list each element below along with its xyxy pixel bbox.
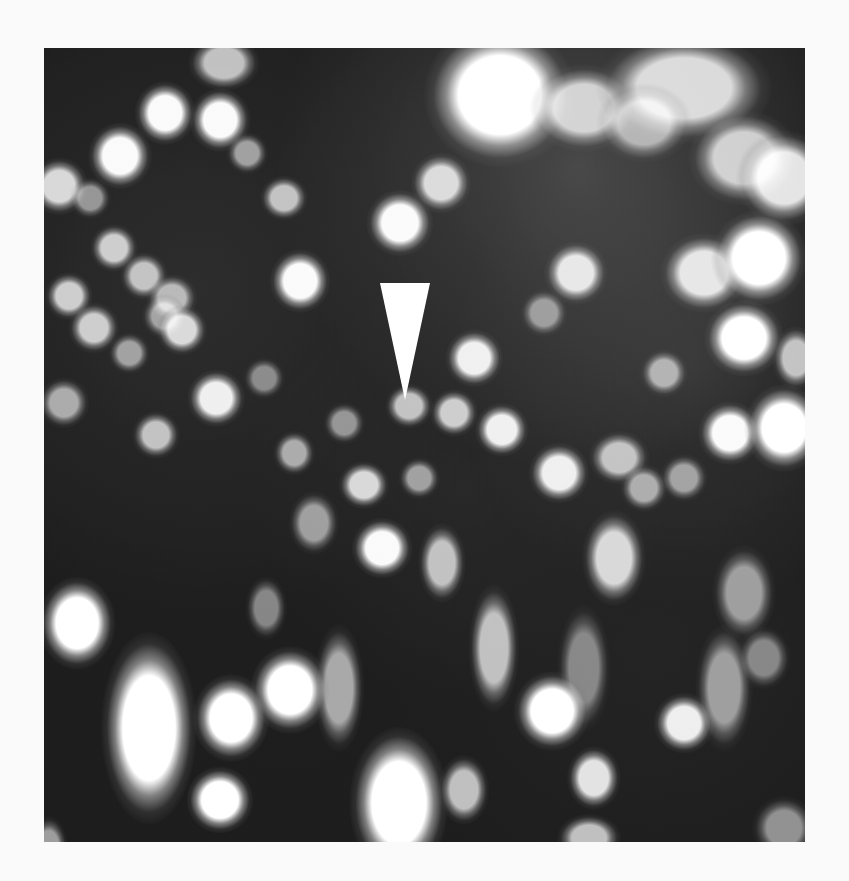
atom-column — [398, 457, 440, 499]
atom-column — [44, 577, 115, 670]
atom-column — [245, 576, 287, 640]
atom-column — [193, 674, 270, 762]
atom-column — [520, 289, 568, 337]
atom-column — [288, 491, 339, 555]
atom-column — [567, 746, 621, 810]
micrograph-image — [44, 48, 805, 842]
atom-column — [582, 510, 646, 606]
atom-column — [596, 83, 692, 163]
atom-column — [101, 632, 197, 824]
atom-column — [529, 443, 590, 504]
atom-column — [243, 357, 285, 399]
atom-column — [352, 518, 413, 579]
atom-column — [445, 329, 503, 387]
atom-column — [270, 249, 331, 313]
atom-column — [186, 766, 253, 833]
atom-column — [430, 389, 478, 437]
atom-column — [108, 332, 150, 374]
atom-column — [156, 304, 207, 355]
atom-column — [132, 411, 180, 459]
atom-column — [711, 210, 805, 306]
atom-column — [514, 671, 591, 751]
arrow-marker-icon — [380, 283, 430, 400]
atom-column — [69, 177, 111, 219]
atom-column — [260, 176, 308, 221]
atom-column — [323, 402, 365, 444]
atom-column — [418, 523, 466, 603]
atom-column — [468, 584, 519, 712]
atom-column — [226, 132, 268, 174]
atom-column — [187, 369, 245, 427]
atom-column — [660, 454, 708, 502]
atom-column — [737, 626, 791, 690]
atom-column — [338, 461, 389, 509]
atom-column — [640, 349, 688, 397]
atom-column — [411, 153, 472, 214]
atom-column — [273, 431, 315, 476]
